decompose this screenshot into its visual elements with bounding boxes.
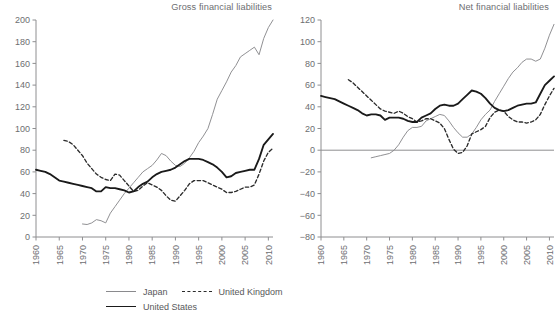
svg-text:60: 60 (20, 167, 30, 177)
svg-text:2000: 2000 (499, 245, 509, 265)
svg-text:1965: 1965 (55, 245, 65, 265)
svg-text:2000: 2000 (217, 245, 227, 265)
svg-text:2005: 2005 (240, 245, 250, 265)
chart-legend: Japan United Kingdom United States (0, 281, 557, 320)
legend-label-united-states: United States (143, 302, 197, 312)
svg-text:−40: −40 (300, 189, 315, 199)
legend-item-japan[interactable]: Japan (106, 287, 168, 297)
svg-text:120: 120 (300, 15, 315, 25)
svg-text:180: 180 (15, 37, 30, 47)
svg-text:1975: 1975 (101, 245, 111, 265)
legend-label-japan: Japan (143, 287, 168, 297)
svg-text:1975: 1975 (385, 245, 395, 265)
svg-text:60: 60 (305, 80, 315, 90)
svg-text:120: 120 (15, 102, 30, 112)
svg-text:0: 0 (25, 232, 30, 242)
svg-text:1980: 1980 (408, 245, 418, 265)
legend-label-united-kingdom: United Kingdom (219, 287, 283, 297)
figure-container: Gross financial liabilities 020406080100… (0, 0, 557, 320)
svg-text:1985: 1985 (147, 245, 157, 265)
svg-text:20: 20 (305, 124, 315, 134)
chart-panel-net: Net financial liabilities −80−60−40−2002… (277, 0, 557, 280)
svg-text:−60: −60 (300, 211, 315, 221)
plot-area-net: −80−60−40−200204060801001201960196519701… (277, 0, 557, 280)
svg-text:20: 20 (20, 211, 30, 221)
svg-text:80: 80 (20, 145, 30, 155)
svg-text:1960: 1960 (31, 245, 41, 265)
svg-text:1985: 1985 (431, 245, 441, 265)
svg-text:1965: 1965 (339, 245, 349, 265)
svg-text:200: 200 (15, 15, 30, 25)
legend-swatch-japan-icon (106, 291, 136, 292)
legend-swatch-united-states-icon (106, 306, 136, 307)
plot-area-gross: 0204060801001201401601802001960196519701… (0, 0, 280, 280)
svg-text:1990: 1990 (453, 245, 463, 265)
legend-item-united-states[interactable]: United States (106, 302, 197, 312)
svg-text:1970: 1970 (78, 245, 88, 265)
svg-text:−20: −20 (300, 167, 315, 177)
svg-text:1995: 1995 (476, 245, 486, 265)
svg-text:2010: 2010 (545, 245, 555, 265)
svg-text:2005: 2005 (522, 245, 532, 265)
svg-text:2010: 2010 (264, 245, 274, 265)
svg-text:1960: 1960 (316, 245, 326, 265)
svg-text:1970: 1970 (362, 245, 372, 265)
svg-text:−80: −80 (300, 232, 315, 242)
chart-panel-gross: Gross financial liabilities 020406080100… (0, 0, 280, 280)
svg-text:1980: 1980 (124, 245, 134, 265)
legend-row-second: United States (106, 300, 197, 313)
legend-row-first: Japan United Kingdom (106, 285, 283, 298)
svg-text:1990: 1990 (171, 245, 181, 265)
svg-text:100: 100 (300, 37, 315, 47)
svg-text:1995: 1995 (194, 245, 204, 265)
legend-swatch-united-kingdom-icon (182, 291, 212, 292)
svg-text:140: 140 (15, 80, 30, 90)
svg-text:40: 40 (305, 102, 315, 112)
svg-text:0: 0 (310, 145, 315, 155)
svg-text:100: 100 (15, 124, 30, 134)
svg-text:80: 80 (305, 59, 315, 69)
svg-text:160: 160 (15, 59, 30, 69)
svg-text:40: 40 (20, 189, 30, 199)
legend-item-united-kingdom[interactable]: United Kingdom (182, 287, 283, 297)
